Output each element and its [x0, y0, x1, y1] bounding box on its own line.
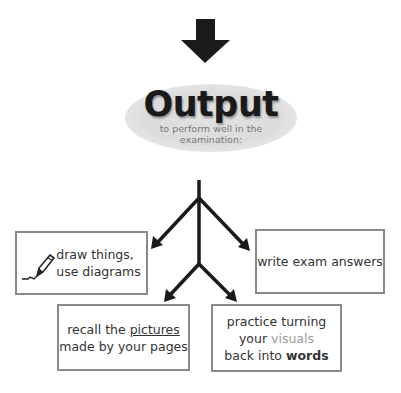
output-title: Output [125, 84, 297, 124]
practice-line-2: your visuals [224, 330, 328, 347]
box-write-exam-answers: write exam answers [255, 229, 385, 294]
recall-line-2: made by your pages [59, 338, 188, 355]
practice-line-2-pre: your [239, 331, 271, 346]
box-practice-turning: practice turning your visuals back into … [211, 304, 342, 372]
practice-line-3-pre: back into [224, 348, 286, 363]
subtitle-line-1: to perform well in the [125, 123, 297, 134]
recall-pictures-underlined: pictures [130, 322, 180, 337]
recall-line-1-pre: recall the [67, 322, 130, 337]
subtitle-line-2: examination: [125, 134, 297, 145]
box-recall-pictures: recall the pictures made by your pages [57, 304, 190, 371]
practice-line-1: practice turning [224, 313, 328, 330]
recall-line-1: recall the pictures [59, 321, 188, 338]
write-line-1: write exam answers [257, 253, 383, 270]
practice-line-3: back into words [224, 347, 328, 364]
draw-line-2: use diagrams [56, 263, 141, 280]
output-subtitle: to perform well in the examination: [125, 123, 297, 145]
pen-icon [20, 249, 60, 285]
words-bold: words [286, 348, 329, 363]
box-draw-things: draw things, use diagrams [15, 231, 148, 295]
visuals-highlight: visuals [271, 331, 314, 346]
draw-line-1: draw things, [56, 246, 141, 263]
down-arrow-icon [181, 19, 230, 63]
